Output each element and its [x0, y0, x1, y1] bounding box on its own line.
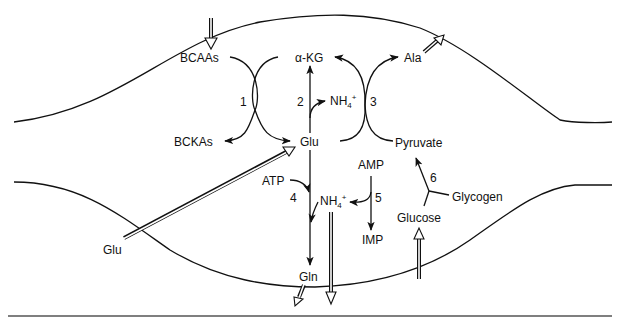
- reaction-number-5: 5: [375, 191, 382, 205]
- reaction-6-glucose-branch: [424, 191, 429, 206]
- reaction-4-nh4-input-arrow: [311, 202, 318, 222]
- reaction-6-glycogen-branch: [429, 191, 449, 195]
- reaction-6-to-pyruvate-arrow: [416, 158, 429, 191]
- label-amp: AMP: [358, 158, 384, 172]
- reaction-number-2: 2: [297, 95, 304, 109]
- metabolic-pathway-diagram: BCAAs BCKAs α-KG Glu NH4+ Ala Pyruvate A…: [0, 0, 625, 325]
- transport-ala-out-arrow: [423, 35, 444, 53]
- label-glu-outside: Glu: [103, 243, 122, 257]
- label-nh4-bottom: NH4+: [320, 193, 347, 210]
- label-nh4-top: NH4+: [330, 93, 357, 110]
- label-pyruvate: Pyruvate: [395, 136, 443, 150]
- reaction-number-3: 3: [370, 95, 377, 109]
- reaction-number-1: 1: [240, 95, 247, 109]
- label-bcaas: BCAAs: [180, 51, 219, 65]
- label-gln: Gln: [299, 270, 318, 284]
- reaction-5-nh4-release-arrow: [350, 192, 371, 202]
- reaction-1-akg-to-glu-arrow: [252, 57, 290, 141]
- label-akg: α-KG: [295, 51, 323, 65]
- reaction-number-6: 6: [430, 171, 437, 185]
- reaction-2-nh4-release-arrow: [310, 101, 325, 118]
- transport-glu-in-arrow: [123, 147, 295, 239]
- transport-glucose-in-arrow: [414, 228, 424, 280]
- label-bckas: BCKAs: [174, 135, 213, 149]
- label-imp: IMP: [362, 233, 383, 247]
- label-glucose: Glucose: [397, 211, 441, 225]
- label-ala: Ala: [404, 51, 422, 65]
- reaction-number-4: 4: [290, 191, 297, 205]
- label-glycogen: Glycogen: [452, 190, 503, 204]
- transport-bcaas-in-arrow: [205, 18, 217, 49]
- label-atp: ATP: [262, 174, 284, 188]
- transport-nh4-out-arrow: [326, 212, 336, 304]
- label-glu-center: Glu: [300, 135, 319, 149]
- upper-membrane-curve: [14, 15, 612, 122]
